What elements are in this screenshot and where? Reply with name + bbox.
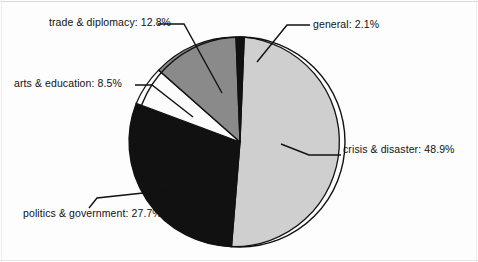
pie-label-trade-diplomacy: trade & diplomacy: 12.8% xyxy=(49,16,171,28)
pie-slice-crisis-disaster[interactable] xyxy=(232,37,340,247)
pie-label-arts-education: arts & education: 8.5% xyxy=(14,77,122,89)
pie-chart xyxy=(0,0,478,262)
pie-label-general: general: 2.1% xyxy=(313,18,379,30)
chart-figure: trade & diplomacy: 12.8% general: 2.1% a… xyxy=(0,0,478,262)
pie-label-politics-government: politics & government: 27.7% xyxy=(23,207,162,219)
pie-label-crisis-disaster: crisis & disaster: 48.9% xyxy=(343,143,455,155)
